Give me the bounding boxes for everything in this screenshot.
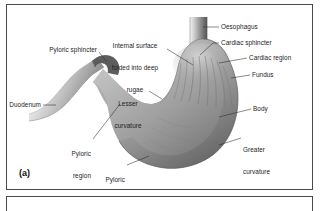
label-rugae-line3: rugae bbox=[104, 86, 166, 93]
label-greater-curvature-line1: Greater bbox=[243, 146, 270, 153]
duodenum-shape bbox=[29, 58, 104, 121]
label-fundus: Fundus bbox=[252, 71, 274, 78]
label-cardiac-region: Cardiac region bbox=[249, 54, 291, 61]
label-greater-curvature-line2: curvature bbox=[243, 168, 270, 175]
label-body: Body bbox=[253, 105, 268, 112]
label-rugae-line1: Internal surface bbox=[104, 42, 166, 49]
label-internal-surface-rugae: Internal surface folded into deep rugae bbox=[104, 27, 166, 108]
label-oesophagus: Oesophagus bbox=[221, 23, 258, 30]
label-pyloric-region-line1: Pyloric bbox=[55, 150, 91, 157]
label-cardiac-sphincter: Cardiac sphincter bbox=[221, 39, 272, 46]
figure-panel-b-partial bbox=[6, 196, 313, 211]
label-rugae-line2: folded into deep bbox=[104, 64, 166, 71]
label-pyloric-antrum-line1: Pyloric bbox=[81, 176, 125, 183]
label-lesser-curvature-line2: curvature bbox=[107, 122, 149, 129]
figure-panel-a: Oesophagus Cardiac sphincter Cardiac reg… bbox=[6, 4, 313, 190]
label-greater-curvature: Greater curvature bbox=[243, 131, 270, 190]
figure-container: Oesophagus Cardiac sphincter Cardiac reg… bbox=[0, 0, 321, 211]
panel-letter-a: (a) bbox=[19, 168, 30, 178]
label-pyloric-sphincter: Pyloric sphincter bbox=[25, 46, 97, 53]
label-duodenum: Duodenum bbox=[7, 101, 41, 108]
